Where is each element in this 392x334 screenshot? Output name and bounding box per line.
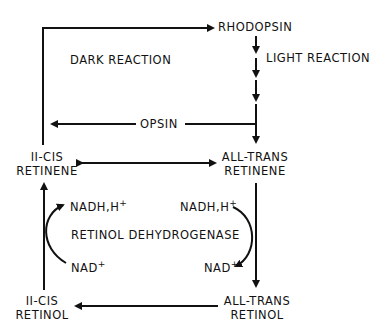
cis-retinene-node: II-CIS RETINENE bbox=[14, 150, 80, 178]
trans-retinol-node: ALL-TRANS RETINOL bbox=[218, 294, 296, 322]
cis-retinol-node: II-CIS RETINOL bbox=[14, 294, 70, 322]
dark-reaction-arrow bbox=[43, 28, 213, 145]
nadh-left-label: NADH,H+ bbox=[70, 200, 127, 214]
enzyme-label: RETINOL DEHYDROGENASE bbox=[71, 228, 240, 242]
nadh-right-label: NADH,H+ bbox=[180, 200, 237, 214]
light-reaction-label: LIGHT REACTION bbox=[266, 51, 370, 65]
dark-reaction-label: DARK REACTION bbox=[70, 53, 171, 67]
nad-right-label: NAD+ bbox=[204, 261, 239, 275]
trans-retinene-node: ALL-TRANS RETINENE bbox=[216, 150, 294, 178]
opsin-label: OPSIN bbox=[140, 117, 178, 131]
rhodopsin-label: RHODOPSIN bbox=[218, 20, 292, 34]
nad-left-label: NAD+ bbox=[71, 261, 106, 275]
